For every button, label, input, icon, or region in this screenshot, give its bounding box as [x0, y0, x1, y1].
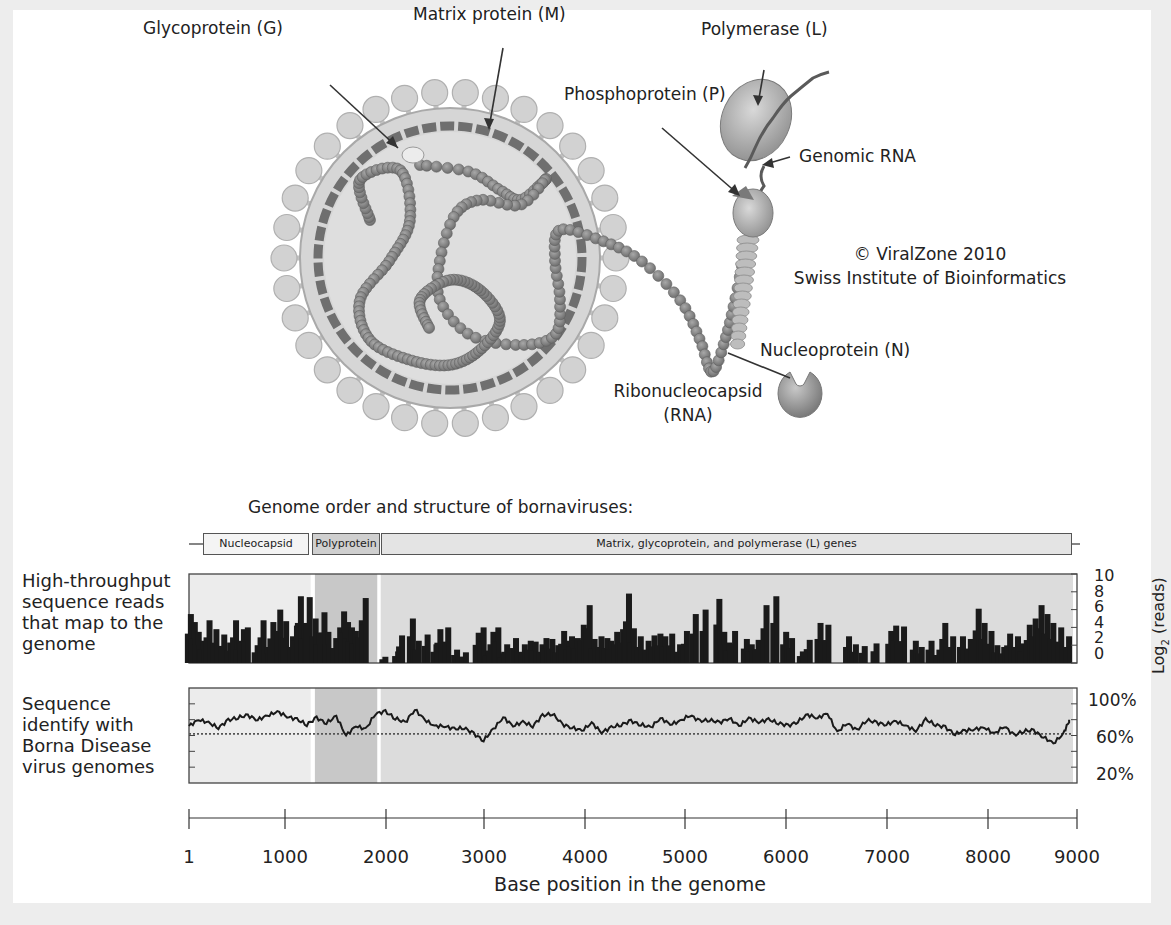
x-tick-2000: 2000: [363, 846, 409, 867]
x-tick-1: 1: [183, 846, 194, 867]
x-tick-4000: 4000: [562, 846, 608, 867]
x-tick-7000: 7000: [864, 846, 910, 867]
x-tick-5000: 5000: [662, 846, 708, 867]
x-tick-8000: 8000: [965, 846, 1011, 867]
x-tick-9000: 9000: [1054, 846, 1100, 867]
x-axis-title: Base position in the genome: [380, 874, 880, 894]
x-tick-6000: 6000: [763, 846, 809, 867]
x-tick-3000: 3000: [461, 846, 507, 867]
x-tick-1000: 1000: [262, 846, 308, 867]
